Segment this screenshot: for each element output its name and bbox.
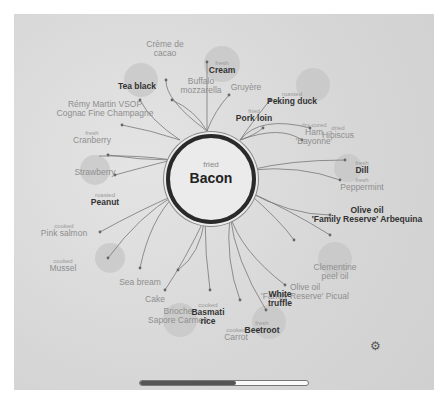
pairing-beetroot[interactable]: freshBeetroot: [245, 320, 280, 335]
pairing-name: Cream: [209, 66, 235, 75]
pairing-name: Tea black: [118, 82, 156, 91]
center-ingredient[interactable]: fried Bacon: [166, 134, 256, 224]
pairing-cream[interactable]: freshCream: [209, 60, 235, 75]
pairing-basmati-rice[interactable]: cookedBasmatirice: [191, 302, 224, 326]
pairing-name: Peanut: [91, 198, 119, 207]
center-name: Bacon: [170, 170, 252, 186]
pairing-cake[interactable]: Cake: [145, 295, 165, 304]
pairing-name: Peking duck: [267, 97, 317, 106]
pairing-hibiscus[interactable]: driedHibiscus: [322, 125, 354, 140]
pairing-name: Cake: [145, 295, 165, 304]
pairing-mussel[interactable]: cookedMussel: [50, 258, 77, 273]
pairing-remy-martin[interactable]: Rémy Martin VSOPCognac Fine Champagne: [57, 100, 154, 118]
pairing-olive-oil-arbequina[interactable]: Olive oil'Family Reserve' Arbequina: [312, 206, 423, 224]
pairing-name: cacao: [146, 49, 183, 58]
pairing-name: rice: [191, 317, 224, 326]
scrollbar-thumb[interactable]: [140, 381, 236, 385]
pairing-name: 'Family Reserve' Arbequina: [312, 215, 423, 224]
pairing-peanut[interactable]: roastedPeanut: [91, 192, 119, 207]
pairing-white-truffle[interactable]: Whitetruffle: [268, 290, 292, 308]
pairing-name: Beetroot: [245, 326, 280, 335]
pairing-name: truffle: [268, 299, 292, 308]
pairing-name: Sea bream: [119, 278, 161, 287]
gear-icon[interactable]: ⚙: [370, 339, 381, 353]
pairing-pink-salmon[interactable]: cookedPink salmon: [41, 223, 87, 238]
pairing-creme-de-cacao[interactable]: Crème decacao: [146, 40, 183, 58]
pairing-clementine-peel-oil[interactable]: Clementinepeel oil: [314, 263, 357, 281]
pairing-pork-loin[interactable]: friedPork loin: [236, 108, 272, 123]
pairing-peppermint[interactable]: freshPeppermint: [340, 177, 383, 192]
pairing-name: mozzarella: [180, 86, 221, 95]
pairing-buffalo-mozzarella[interactable]: Buffalomozzarella: [180, 77, 221, 95]
pairing-name: Hibiscus: [322, 131, 354, 140]
pairing-strawberry[interactable]: Strawberry: [74, 168, 115, 177]
pairing-name: Cranberry: [73, 136, 111, 145]
pairing-name: Strawberry: [74, 168, 115, 177]
pairing-cranberry[interactable]: freshCranberry: [73, 130, 111, 145]
pairing-sea-bream[interactable]: Sea bream: [119, 278, 161, 287]
pairing-tea-black[interactable]: Tea black: [118, 82, 156, 91]
pairing-name: Dill: [355, 166, 368, 175]
pairing-name: peel oil: [314, 272, 357, 281]
horizontal-scrollbar[interactable]: [139, 380, 309, 386]
center-qualifier: fried: [170, 160, 252, 169]
pairing-name: Gruyère: [231, 83, 262, 92]
pairing-gruyere[interactable]: Gruyère: [231, 83, 262, 92]
pairing-peking-duck[interactable]: roastedPeking duck: [267, 91, 317, 106]
pairing-name: Cognac Fine Champagne: [57, 109, 154, 118]
pairing-name: Pink salmon: [41, 229, 87, 238]
pairing-name: Mussel: [50, 264, 77, 273]
pairing-name: Pork loin: [236, 114, 272, 123]
pairing-dill[interactable]: freshDill: [355, 160, 368, 175]
pairing-name: Peppermint: [340, 183, 383, 192]
